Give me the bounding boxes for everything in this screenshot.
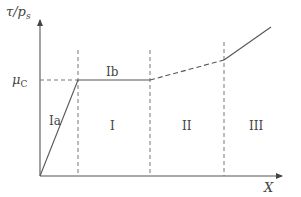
region-label-iii: III xyxy=(249,119,263,133)
y-axis-label: τ/ps xyxy=(6,4,31,21)
segment-ia xyxy=(40,80,78,176)
region-label-i: I xyxy=(110,119,115,133)
mu-c-label: μC xyxy=(12,72,27,89)
friction-regime-diagram: τ/ps X μC Ia Ib I II III xyxy=(0,0,301,197)
region-label-ib: Ib xyxy=(106,65,119,79)
region-label-ia: Ia xyxy=(49,114,61,128)
segment-iii xyxy=(224,27,271,60)
region-label-ii: II xyxy=(182,119,192,133)
segment-ii-dashed xyxy=(150,60,224,80)
x-axis-label: X xyxy=(263,180,274,195)
